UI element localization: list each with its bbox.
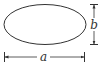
ellipse-shape — [4, 5, 86, 45]
height-dimension: b — [90, 5, 98, 45]
diagram-canvas: a b — [0, 0, 101, 66]
ellipse-diagram: a b — [0, 0, 101, 66]
height-label: b — [90, 18, 98, 32]
width-label: a — [40, 50, 47, 64]
width-dimension: a — [5, 50, 85, 64]
